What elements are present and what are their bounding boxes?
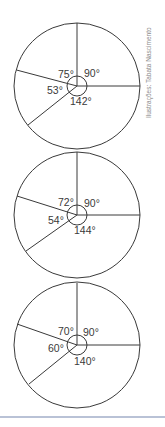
bottom-divider bbox=[0, 416, 165, 418]
angle-label-3-left: 60° bbox=[48, 342, 64, 354]
angle-label-3-bottom: 140° bbox=[74, 355, 96, 367]
circle-angle-diagrams: 75° 90° 53° 142° 72° 90° 54° 144° 70° 90… bbox=[0, 0, 165, 427]
circle-diagram-2 bbox=[14, 152, 140, 278]
angle-label-2-top-right: 90° bbox=[84, 197, 100, 209]
angle-label-2-bottom: 144° bbox=[74, 224, 96, 236]
angle-label-2-top-left: 72° bbox=[58, 196, 74, 208]
angle-label-1-top-left: 75° bbox=[58, 68, 74, 80]
angle-label-1-bottom: 142° bbox=[70, 95, 92, 107]
circle-diagram-3 bbox=[14, 282, 140, 408]
angle-label-3-top-left: 70° bbox=[58, 325, 74, 337]
angle-label-1-top-right: 90° bbox=[84, 67, 100, 79]
angle-label-1-left: 53° bbox=[47, 84, 63, 96]
angle-label-2-left: 54° bbox=[48, 214, 64, 226]
angle-label-3-top-right: 90° bbox=[83, 326, 99, 338]
circle-diagram-1 bbox=[14, 23, 140, 149]
illustration-credit: Ilustrações: Tabata Nascimento bbox=[145, 0, 152, 118]
